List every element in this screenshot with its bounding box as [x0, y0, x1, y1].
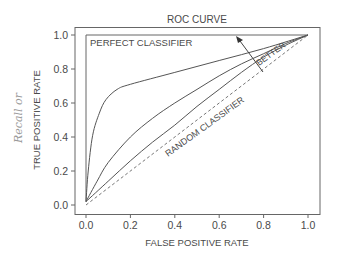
handwritten-annotation: Recall or — [12, 92, 25, 144]
x-axis-label: FALSE POSITIVE RATE — [145, 237, 248, 248]
roc-chart: ROC CURVE 0.00.20.40.60.81.0 0.00.20.40.… — [0, 0, 338, 257]
y-tick-label: 0.2 — [53, 165, 68, 177]
x-tick-label: 0.6 — [212, 219, 227, 231]
y-tick-label: 0.0 — [53, 199, 68, 211]
y-tick-label: 1.0 — [53, 29, 68, 41]
series-random-classifier — [86, 35, 308, 205]
x-tick-label: 0.4 — [167, 219, 182, 231]
y-tick-label: 0.4 — [53, 131, 68, 143]
series-group — [86, 35, 308, 205]
y-axis-label: TRUE POSITIVE RATE — [31, 70, 42, 170]
x-tick-label: 0.0 — [79, 219, 94, 231]
x-tick-label: 0.8 — [256, 219, 271, 231]
x-axis-ticks: 0.00.20.40.60.81.0 — [79, 215, 316, 232]
perfect-classifier-label: PERFECT CLASSIFIER — [90, 37, 192, 48]
chart-title: ROC CURVE — [167, 14, 227, 25]
y-tick-label: 0.6 — [53, 97, 68, 109]
y-axis-ticks: 0.00.20.40.60.81.0 — [53, 29, 75, 211]
arrow-head-icon — [236, 36, 243, 43]
y-tick-label: 0.8 — [53, 63, 68, 75]
plot-frame — [75, 28, 320, 215]
x-tick-label: 0.2 — [123, 219, 138, 231]
x-tick-label: 1.0 — [301, 219, 316, 231]
random-classifier-label: RANDOM CLASSIFIER — [163, 94, 246, 158]
